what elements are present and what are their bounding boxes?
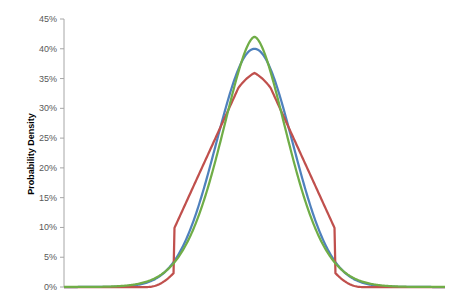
plot-area	[64, 37, 445, 287]
y-tick-label: 10%	[39, 222, 57, 232]
series-line	[64, 73, 445, 287]
series-line	[64, 49, 445, 287]
y-tick-label: 0%	[44, 282, 57, 292]
y-axis: 0%5%10%15%20%25%30%35%40%45%	[39, 14, 64, 292]
y-tick-label: 30%	[39, 103, 57, 113]
y-tick-label: 15%	[39, 193, 57, 203]
chart: 0%5%10%15%20%25%30%35%40%45% Probability…	[0, 0, 468, 307]
y-tick-label: 20%	[39, 163, 57, 173]
y-tick-label: 45%	[39, 14, 57, 24]
series-line	[64, 37, 445, 287]
y-axis-title: Probability Density	[26, 113, 36, 195]
y-tick-label: 25%	[39, 133, 57, 143]
y-tick-label: 40%	[39, 44, 57, 54]
y-tick-label: 35%	[39, 74, 57, 84]
y-tick-label: 5%	[44, 252, 57, 262]
